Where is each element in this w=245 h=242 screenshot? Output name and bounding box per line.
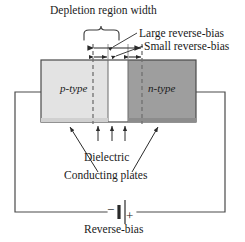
reverse-bias-pn-junction-figure: Depletion region width Large reverse-bia… <box>0 0 245 242</box>
label-battery-negative: − <box>107 203 114 216</box>
label-n-type: n-type <box>148 83 175 94</box>
label-dielectric: Dielectric <box>84 152 129 164</box>
label-battery-positive: + <box>126 209 133 222</box>
gap-guide-lines <box>108 44 128 60</box>
brace-path <box>84 26 119 40</box>
conducting-plate-arrow-right <box>132 127 158 172</box>
leader-large-reverse-bias <box>113 33 137 47</box>
conducting-plate-right <box>128 118 196 122</box>
figure-title: Depletion region width <box>50 5 157 17</box>
battery-symbol <box>119 200 125 224</box>
label-conducting-plates: Conducting plates <box>64 170 147 182</box>
conducting-plate-arrow-left <box>70 127 98 172</box>
depletion-gap-region <box>108 60 128 122</box>
conducting-plate-left <box>41 118 108 122</box>
label-p-type: p-type <box>60 83 87 94</box>
label-small-reverse-bias: Small reverse-bias <box>144 41 229 53</box>
label-large-reverse-bias: Large reverse-bias <box>139 28 224 40</box>
figure-caption: Reverse-bias <box>84 224 143 236</box>
callout-arrows <box>70 126 158 172</box>
depletion-width-brace <box>84 26 119 40</box>
